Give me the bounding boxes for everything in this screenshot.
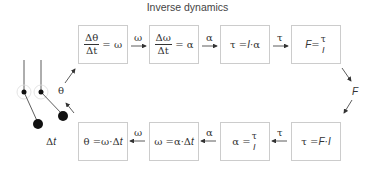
arrow-label-omega-top: ω xyxy=(134,32,142,43)
box-angular-acceleration: ΔωΔt = α xyxy=(149,25,199,64)
arrow-label-alpha-top: α xyxy=(206,32,213,43)
side-label-force: F xyxy=(352,86,358,97)
side-label-theta: θ xyxy=(58,85,64,96)
fraction: τI xyxy=(251,132,258,152)
box-angular-velocity: ΔθΔt = ω xyxy=(78,25,128,64)
box-force: F = τI xyxy=(291,25,341,64)
box-torque-from-force: τ = F·I xyxy=(291,122,341,161)
arrow-label-omega-bottom: ω xyxy=(134,127,142,138)
fraction: ΔωΔt xyxy=(155,33,172,56)
box-angular-velocity-integrated: ω =α·Δt xyxy=(149,122,199,161)
fraction: τI xyxy=(320,35,327,55)
box-angular-acceleration-from-torque: α = τI xyxy=(220,122,270,161)
box-torque: τ = I·α xyxy=(220,25,270,64)
arrow-label-tau-top: τ xyxy=(277,32,283,43)
arrow-label-alpha-bottom: α xyxy=(206,127,213,138)
arrow-label-tau-bottom: τ xyxy=(277,127,283,138)
box-angle: θ =ω·Δt xyxy=(78,122,128,161)
side-label-delta-t: Δt xyxy=(46,136,56,147)
fraction: ΔθΔt xyxy=(84,33,99,56)
